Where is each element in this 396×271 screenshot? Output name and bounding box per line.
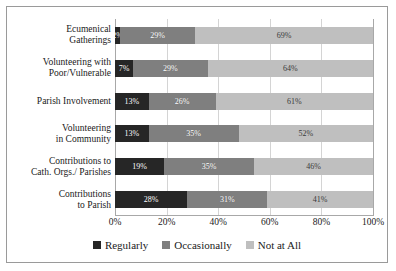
- bar-row: 7%29%64%: [115, 60, 373, 77]
- bar-value-label: 46%: [306, 162, 321, 171]
- bar-segment: 28%: [115, 191, 187, 208]
- bar-value-label: 29%: [163, 64, 178, 73]
- bar-row: 13%35%52%: [115, 125, 373, 142]
- x-axis-line: [115, 215, 373, 216]
- bar-segment: 61%: [216, 93, 373, 110]
- bar-segment: 69%: [195, 27, 373, 44]
- bar-value-label: 29%: [150, 31, 165, 40]
- bar-row: 2%29%69%: [115, 27, 373, 44]
- bar-segment: 29%: [133, 60, 208, 77]
- bar-value-label: 41%: [313, 195, 328, 204]
- bar-segment: 46%: [254, 158, 373, 175]
- category-axis-labels: EcumenicalGatheringsVolunteering withPoo…: [11, 19, 113, 216]
- x-tick-label: 0%: [109, 217, 122, 227]
- bar-value-label: 13%: [124, 97, 139, 106]
- bar-row: 28%31%41%: [115, 191, 373, 208]
- x-tick-label: 40%: [209, 217, 226, 227]
- legend-item[interactable]: Occasionally: [162, 239, 231, 251]
- bar-segment: 13%: [115, 93, 149, 110]
- legend-label: Occasionally: [174, 239, 231, 251]
- bar-value-label: 64%: [283, 64, 298, 73]
- bar-row: 19%35%46%: [115, 158, 373, 175]
- bar-value-label: 61%: [287, 97, 302, 106]
- legend-label: Not at All: [258, 239, 301, 251]
- chart-frame: EcumenicalGatheringsVolunteering withPoo…: [6, 6, 388, 263]
- x-axis-tick-labels: 0%20%40%60%80%100%: [115, 217, 373, 233]
- bar-value-label: 35%: [202, 162, 217, 171]
- legend-swatch-icon: [93, 241, 101, 249]
- bar-segment: 64%: [208, 60, 373, 77]
- bar-segment: 29%: [120, 27, 195, 44]
- bar-row: 13%26%61%: [115, 93, 373, 110]
- bar-segment: 35%: [164, 158, 254, 175]
- legend-item[interactable]: Not at All: [246, 239, 301, 251]
- category-label: Contributionsto Parish: [11, 189, 111, 211]
- bar-segment: 26%: [149, 93, 216, 110]
- x-tick-label: 100%: [362, 217, 384, 227]
- plot-area: 2%29%69%7%29%64%13%26%61%13%35%52%19%35%…: [115, 19, 373, 216]
- bar-value-label: 13%: [124, 129, 139, 138]
- x-tick-label: 80%: [313, 217, 330, 227]
- legend-label: Regularly: [105, 239, 148, 251]
- category-label: Parish Involvement: [11, 96, 111, 107]
- bar-segment: 19%: [115, 158, 164, 175]
- category-label: Volunteering withPoor/Vulnerable: [11, 57, 111, 79]
- category-label: EcumenicalGatherings: [11, 24, 111, 46]
- bar-value-label: 52%: [299, 129, 314, 138]
- legend-item[interactable]: Regularly: [93, 239, 148, 251]
- category-label: Contributions toCath. Orgs./ Parishes: [11, 156, 111, 178]
- bar-segment: 52%: [239, 125, 373, 142]
- bar-value-label: 69%: [277, 31, 292, 40]
- category-label: Volunteeringin Community: [11, 123, 111, 145]
- bar-segment: 13%: [115, 125, 149, 142]
- bar-rows: 2%29%69%7%29%64%13%26%61%13%35%52%19%35%…: [115, 19, 373, 216]
- x-tick-label: 20%: [158, 217, 175, 227]
- bar-value-label: 7%: [119, 64, 130, 73]
- bar-value-label: 31%: [220, 195, 235, 204]
- chart-legend: RegularlyOccasionallyNot at All: [7, 235, 387, 255]
- bar-segment: 41%: [267, 191, 373, 208]
- bar-value-label: 28%: [144, 195, 159, 204]
- x-tick-label: 60%: [261, 217, 278, 227]
- bar-value-label: 35%: [186, 129, 201, 138]
- bar-value-label: 26%: [175, 97, 190, 106]
- legend-swatch-icon: [246, 241, 254, 249]
- bar-segment: 31%: [187, 191, 267, 208]
- legend-swatch-icon: [162, 241, 170, 249]
- bar-value-label: 19%: [132, 162, 147, 171]
- bar-segment: 7%: [115, 60, 133, 77]
- bar-segment: 35%: [149, 125, 239, 142]
- gridline-100: [373, 19, 374, 216]
